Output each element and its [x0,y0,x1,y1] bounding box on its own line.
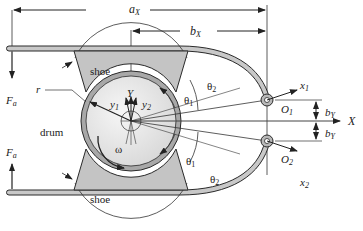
label-Y: Y [127,88,133,99]
drum-brake-diagram [0,0,363,231]
label-theta2-bottom: θ2 [210,174,219,187]
label-shoe-bottom: shoe [90,194,110,205]
label-x2: x2 [300,177,309,190]
label-O2: O2 [281,154,293,167]
label-theta2-top: θ2 [207,81,216,94]
label-fa-bottom: Fa [6,147,17,160]
label-bY-top: bY [325,107,335,120]
label-bx: bX [190,25,201,39]
label-shoe-top: shoe [90,66,110,77]
label-r: r [36,84,40,95]
label-O1: O1 [281,104,293,117]
label-bY-bottom: bY [325,128,335,141]
label-drum: drum [40,127,63,138]
label-omega: ω [115,144,122,155]
label-theta1-top: θ1 [184,95,193,108]
label-X: X [348,115,355,127]
label-ax: aX [129,3,140,17]
label-y2: y2 [142,99,151,112]
label-theta1-bottom: θ1 [186,156,195,169]
label-fa-top: Fa [6,95,17,108]
label-y1: y1 [110,99,119,112]
label-x1: x1 [300,80,309,93]
